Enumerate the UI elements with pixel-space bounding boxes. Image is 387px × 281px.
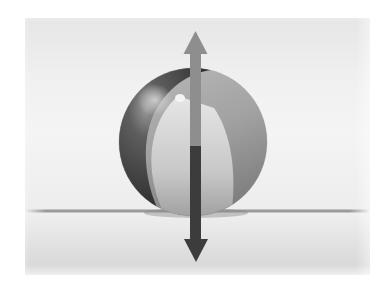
- downward-arrow-shaft: [190, 146, 201, 240]
- ball-valve-spot: [175, 94, 185, 102]
- diagram-svg: [0, 0, 387, 281]
- upward-arrow-shaft: [190, 53, 201, 146]
- force-diagram: [0, 0, 387, 281]
- ball-highlight: [137, 84, 173, 116]
